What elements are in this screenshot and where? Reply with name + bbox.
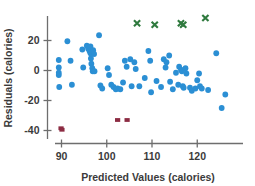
x-axis-title: Predicted Values (calories) [81,171,215,183]
data-point [64,38,70,44]
x-tick-group: 90100110120 [56,140,207,162]
data-point [147,58,153,64]
data-point [219,105,225,111]
data-point [136,83,142,89]
data-point [213,50,219,56]
data-point [145,48,151,54]
data-point [99,86,105,92]
plot-svg: 200-20-40 90100110120 Predicted Values (… [0,0,255,186]
y-axis-title: Residuals (calories) [2,28,14,127]
data-point [129,83,135,89]
data-point [91,51,97,57]
data-point [56,72,62,78]
series-high-outliers [134,15,209,28]
data-point [106,72,112,78]
x-tick-label: 100 [98,150,116,162]
data-point [181,85,187,91]
data-point [183,65,189,71]
outlier-marker [152,22,158,28]
data-point [142,75,148,81]
data-point [120,80,126,86]
low-outlier-marker [115,118,120,122]
y-tick-label: 20 [28,34,40,46]
data-point [173,70,179,76]
low-outlier-marker [59,128,64,132]
data-point [164,59,170,65]
data-point [194,77,200,83]
data-point [117,86,123,92]
data-point [96,32,102,38]
data-point [154,78,160,84]
outlier-marker [202,15,208,21]
data-point [80,65,86,71]
data-point [166,53,172,59]
data-point [133,66,139,72]
x-axis: 90100110120 [55,140,243,162]
x-tick-label: 90 [56,150,68,162]
data-point [158,84,164,90]
data-point [199,86,205,92]
data-point [56,84,62,90]
data-point [131,59,137,65]
data-point [183,71,189,77]
data-point [68,58,74,64]
data-point [205,87,211,93]
y-tick-label: -40 [24,124,39,136]
y-tick-label: 0 [34,64,40,76]
series-residuals [56,32,228,111]
data-point [222,92,228,98]
series-low-outliers [58,118,129,132]
y-axis: 200-20-40 [24,16,51,139]
data-point [122,58,128,64]
data-point [196,71,202,77]
residual-scatter-plot: 200-20-40 90100110120 Predicted Values (… [0,0,255,186]
data-point [56,57,62,63]
data-point [105,65,111,71]
low-outlier-marker [125,118,130,122]
data-point [163,65,169,71]
data-point [170,86,176,92]
data-point [56,65,62,71]
data-point [69,82,75,88]
y-tick-label: -20 [24,94,39,106]
data-point [92,68,98,74]
data-points-layer [56,15,228,132]
x-tick-label: 110 [144,150,161,162]
outlier-marker [134,20,140,26]
data-point [148,89,154,95]
x-tick-label: 120 [188,150,206,162]
data-point [79,47,85,53]
data-point [124,64,130,70]
data-point [167,79,173,85]
